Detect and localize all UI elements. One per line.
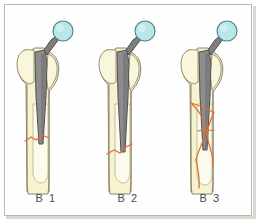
greater-trochanter xyxy=(99,50,116,84)
femoral-head-ball xyxy=(135,21,155,41)
panel-label-b1: B 1 xyxy=(4,192,88,204)
femoral-head-ball xyxy=(217,21,237,41)
femoral-head-highlight xyxy=(138,24,146,32)
panel-b2[interactable]: B 2 xyxy=(86,4,170,216)
femoral-head-highlight xyxy=(220,24,228,32)
panels-row: B 1 B 2 xyxy=(4,4,252,216)
greater-trochanter xyxy=(17,50,34,84)
greater-trochanter xyxy=(181,50,198,84)
figure-container: B 1 B 2 xyxy=(0,0,258,224)
panel-label-b3: B 3 xyxy=(168,192,252,204)
femoral-head-highlight xyxy=(56,24,64,32)
panel-b1[interactable]: B 1 xyxy=(4,4,88,216)
frame-shadow-bottom xyxy=(6,216,256,219)
panel-b3[interactable]: B 3 xyxy=(168,4,252,216)
medial-flare xyxy=(46,54,57,90)
frame-shadow-right xyxy=(253,6,256,219)
panel-label-b2: B 2 xyxy=(86,192,170,204)
femoral-head-ball xyxy=(53,21,73,41)
medial-flare xyxy=(128,54,139,90)
medial-flare xyxy=(210,54,221,90)
